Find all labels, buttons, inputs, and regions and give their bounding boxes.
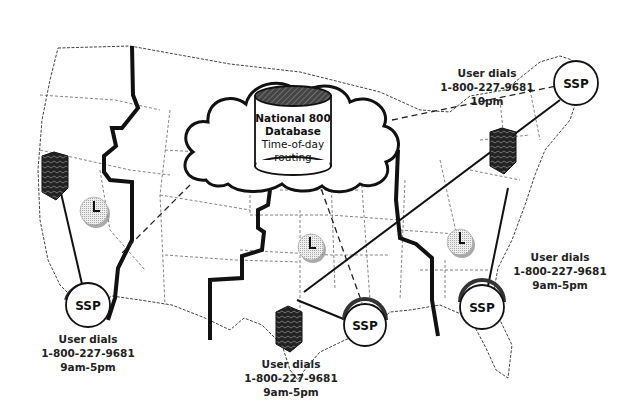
office-building-icon-central xyxy=(276,306,302,352)
callout-east-line2: 1-800-227-9681 xyxy=(513,264,606,278)
office-building-icon-west xyxy=(42,152,68,200)
callout-central-line1: User dials xyxy=(244,357,337,371)
callout-west-line1: User dials xyxy=(41,332,134,346)
callout-northeast-line2: 1-800-227-9681 xyxy=(440,80,533,94)
ssp-label-south-central: SSP xyxy=(352,319,378,333)
callout-west-line2: 1-800-227-9681 xyxy=(41,346,134,360)
database-label-line2: Database xyxy=(255,125,330,138)
clock-icon-eastern xyxy=(447,229,475,258)
ssp-label-southeast: SSP xyxy=(469,301,495,315)
callout-east-line3: 9am-5pm xyxy=(513,278,606,292)
database-label-line4: routing xyxy=(255,151,330,164)
diagram-canvas: National 800 Database Time-of-day routin… xyxy=(0,0,622,403)
callout-northeast: User dials 1-800-227-9681 10pm xyxy=(440,66,533,108)
callout-northeast-line1: User dials xyxy=(440,66,533,80)
ssp-label-west: SSP xyxy=(75,299,101,313)
callout-west-line3: 9am-5pm xyxy=(41,360,134,374)
callout-west: User dials 1-800-227-9681 9am-5pm xyxy=(41,332,134,374)
callout-central-line3: 9am-5pm xyxy=(244,385,337,399)
callout-central: User dials 1-800-227-9681 9am-5pm xyxy=(244,357,337,399)
clock-icon-central xyxy=(298,234,326,263)
database-label-line1: National 800 xyxy=(255,112,330,125)
database-label: National 800 Database Time-of-day routin… xyxy=(255,112,330,164)
ssp-label-northeast: SSP xyxy=(563,77,589,91)
callout-central-line2: 1-800-227-9681 xyxy=(244,371,337,385)
callout-east-line1: User dials xyxy=(513,250,606,264)
callout-east: User dials 1-800-227-9681 9am-5pm xyxy=(513,250,606,292)
office-building-icon-east xyxy=(490,128,516,174)
database-label-line3: Time-of-day xyxy=(255,138,330,151)
callout-northeast-line3: 10pm xyxy=(440,94,533,108)
